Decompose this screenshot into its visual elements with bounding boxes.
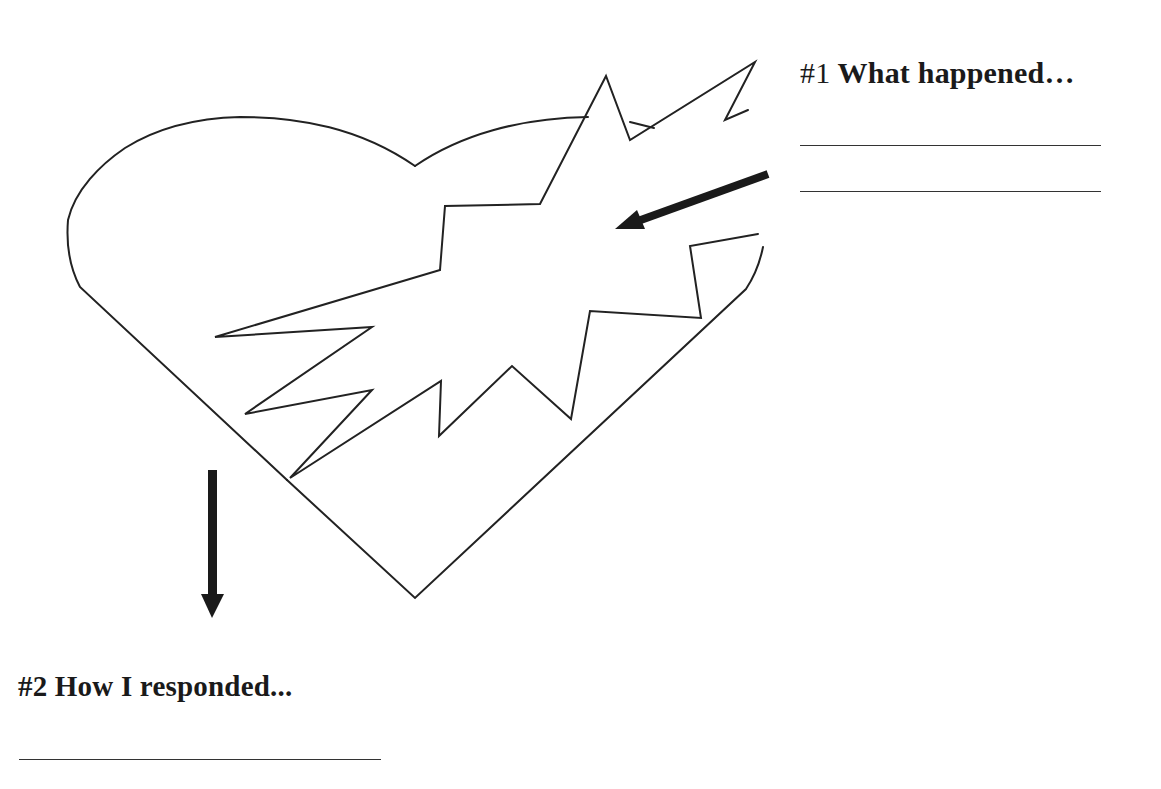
prompt-text: What happened… (838, 56, 1075, 89)
prompt-how-i-responded: #2 How I responded... (18, 672, 292, 701)
heart-left-lobe-outline (68, 117, 416, 480)
crack-upper-edge (440, 62, 755, 270)
prompt-number: #1 (800, 56, 830, 89)
heart-right-lower-outline (287, 247, 763, 598)
prompt-number: #2 (18, 670, 47, 702)
prompt-what-happened: #1 What happened… (800, 58, 1075, 88)
answer-line-how-i-responded-1[interactable] (19, 759, 381, 760)
answer-line-what-happened-2[interactable] (800, 191, 1101, 192)
heart-right-lobe-top-outline (415, 117, 588, 166)
arrow-into-crack-icon (615, 174, 768, 229)
answer-line-what-happened-1[interactable] (800, 145, 1101, 146)
arrow-down-icon (201, 470, 224, 618)
prompt-text: How I responded... (55, 670, 293, 702)
crack-lower-edge (215, 234, 758, 478)
